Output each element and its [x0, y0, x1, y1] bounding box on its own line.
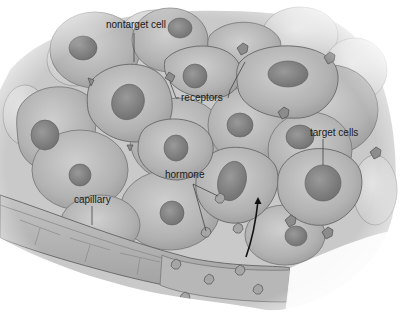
label-target-cells: target cells: [310, 127, 358, 138]
cell-illustration: nontarget cell receptors target cells ho…: [0, 0, 400, 315]
label-receptors: receptors: [181, 92, 223, 103]
label-hormone: hormone: [165, 169, 205, 180]
diagram-canvas: nontarget cell receptors target cells ho…: [0, 0, 400, 315]
label-capillary: capillary: [74, 194, 111, 205]
label-nontarget-cell: nontarget cell: [106, 19, 166, 30]
